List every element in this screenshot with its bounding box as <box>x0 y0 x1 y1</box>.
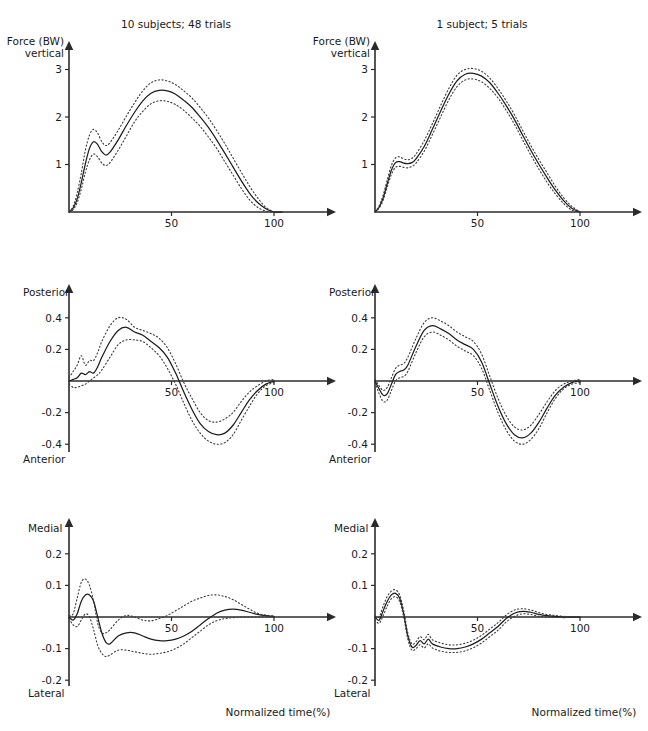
x-tick-label: 100 <box>264 386 284 398</box>
curve-upper_band-vertical-right <box>375 68 580 212</box>
x-axis-arrowhead <box>633 208 642 217</box>
x-tick-label: 50 <box>165 217 178 229</box>
curve-upper_band-ap-left <box>69 317 274 422</box>
y-axis-label-lateral-right: Lateral <box>334 687 371 699</box>
y-axis-label-posterior-right: Posterior <box>329 286 376 298</box>
y-axis-label-posterior-left: Posterior <box>23 286 70 298</box>
y-tick-label: -0.2 <box>42 406 63 418</box>
x-tick-label: 100 <box>570 622 590 634</box>
y-axis-label-anterior-left: Anterior <box>23 453 66 465</box>
x-tick-label: 50 <box>165 622 178 634</box>
y-axis-label-force-left-line1: Force (BW) <box>7 35 64 47</box>
y-tick-label: -0.1 <box>42 642 63 654</box>
y-axis-arrowhead <box>371 518 380 527</box>
y-tick-label: 0.1 <box>351 579 368 591</box>
panel-ap-left: 0.40.2-0.2-0.450100 <box>42 284 337 452</box>
panel-ap-right: 0.40.2-0.2-0.450100 <box>348 284 643 452</box>
y-tick-label: -0.4 <box>42 438 63 450</box>
x-tick-label: 100 <box>264 622 284 634</box>
x-tick-label: 50 <box>471 217 484 229</box>
y-tick-label: -0.2 <box>348 406 369 418</box>
y-tick-label: 1 <box>361 158 368 170</box>
x-axis-arrowhead <box>327 208 336 217</box>
y-axis-label-medial-right: Medial <box>334 522 368 534</box>
panel-vertical-right: 12350100 <box>361 41 642 229</box>
y-tick-label: 3 <box>55 63 62 75</box>
y-tick-label: 0.2 <box>45 343 62 355</box>
y-axis-arrowhead <box>65 518 74 527</box>
x-tick-label: 50 <box>471 622 484 634</box>
y-axis-label-force-right-line1: Force (BW) <box>313 35 370 47</box>
curve-mean-vertical-left <box>69 90 282 212</box>
panel-vertical-left: 12350100 <box>55 41 336 229</box>
gait-force-figure: 12350100123501000.40.2-0.2-0.4501000.40.… <box>0 0 648 731</box>
x-axis-arrowhead <box>633 613 642 622</box>
y-tick-label: 0.2 <box>45 548 62 560</box>
y-tick-label: 0.2 <box>351 343 368 355</box>
y-tick-label: 0.4 <box>45 312 62 324</box>
curve-upper_band-vertical-left <box>69 80 274 212</box>
y-tick-label: 2 <box>55 111 62 123</box>
x-tick-label: 100 <box>570 217 590 229</box>
y-axis-label-anterior-right: Anterior <box>329 453 372 465</box>
curve-mean-vertical-right <box>375 73 580 212</box>
x-axis-arrowhead <box>327 377 336 386</box>
panel-title-right: 1 subject; 5 trials <box>436 18 527 30</box>
x-axis-caption-right: Normalized time(%) <box>532 706 637 718</box>
y-tick-label: 0.2 <box>351 548 368 560</box>
y-tick-label: -0.2 <box>42 674 63 686</box>
panel-ml-right: 0.20.1-0.1-0.250100 <box>348 518 643 686</box>
curve-lower_band-vertical-right <box>375 79 580 212</box>
panel-ml-left: 0.20.1-0.1-0.250100 <box>42 518 337 686</box>
y-axis-arrowhead <box>371 41 380 50</box>
x-axis-arrowhead <box>327 613 336 622</box>
x-axis-arrowhead <box>633 377 642 386</box>
curve-lower_band-vertical-left <box>69 101 274 212</box>
y-tick-label: 3 <box>361 63 368 75</box>
y-axis-arrowhead <box>65 41 74 50</box>
y-axis-label-force-left-line2: vertical <box>25 47 64 59</box>
y-axis-label-force-right-line2: vertical <box>331 47 370 59</box>
x-axis-caption-left: Normalized time(%) <box>226 706 331 718</box>
panel-title-left: 10 subjects; 48 trials <box>121 18 231 30</box>
y-tick-label: -0.1 <box>348 642 369 654</box>
x-tick-label: 50 <box>471 386 484 398</box>
y-tick-label: 0.4 <box>351 312 368 324</box>
x-tick-label: 100 <box>264 217 284 229</box>
y-tick-label: -0.4 <box>348 438 369 450</box>
y-tick-label: 2 <box>361 111 368 123</box>
y-tick-label: 0.1 <box>45 579 62 591</box>
curve-upper_band-ap-right <box>375 318 580 430</box>
figure-canvas: 12350100123501000.40.2-0.2-0.4501000.40.… <box>0 0 648 731</box>
y-axis-label-lateral-left: Lateral <box>28 687 65 699</box>
y-tick-label: 1 <box>55 158 62 170</box>
x-tick-label: 50 <box>165 386 178 398</box>
y-tick-label: -0.2 <box>348 674 369 686</box>
y-axis-label-medial-left: Medial <box>28 522 62 534</box>
x-tick-label: 100 <box>570 386 590 398</box>
